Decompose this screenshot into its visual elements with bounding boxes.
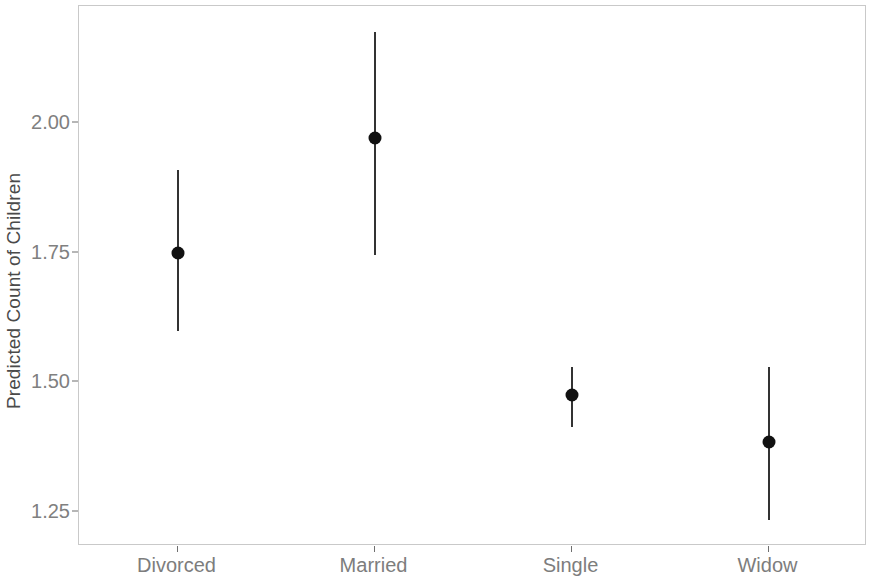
- x-axis-tick-mark: [571, 546, 572, 552]
- data-layer: [79, 6, 865, 544]
- x-axis-tick-label: Single: [481, 553, 661, 577]
- y-axis-tick-labels: 2.001.751.501.25: [12, 0, 70, 582]
- x-axis-tick-label: Married: [284, 553, 464, 577]
- y-axis-tick-mark: [72, 511, 78, 512]
- data-point: [171, 246, 184, 259]
- x-axis-tick-mark: [374, 546, 375, 552]
- y-axis-tick-label: 2.00: [8, 112, 70, 132]
- data-point: [368, 132, 381, 145]
- data-point: [565, 389, 578, 402]
- x-axis-tick-label: Widow: [678, 553, 858, 577]
- x-axis-tick-mark: [768, 546, 769, 552]
- data-point: [762, 436, 775, 449]
- y-axis-tick-label: 1.75: [8, 242, 70, 262]
- y-axis-tick-mark: [72, 251, 78, 252]
- x-axis-tick-label: Divorced: [87, 553, 267, 577]
- y-axis-tick-label: 1.25: [8, 501, 70, 521]
- y-axis-tick-mark: [72, 381, 78, 382]
- y-axis-tick-mark: [72, 121, 78, 122]
- y-axis-tick-label: 1.50: [8, 371, 70, 391]
- chart-panel: [78, 5, 866, 545]
- plot-area: Predicted Count of Children 2.001.751.50…: [0, 0, 873, 582]
- x-axis-tick-mark: [177, 546, 178, 552]
